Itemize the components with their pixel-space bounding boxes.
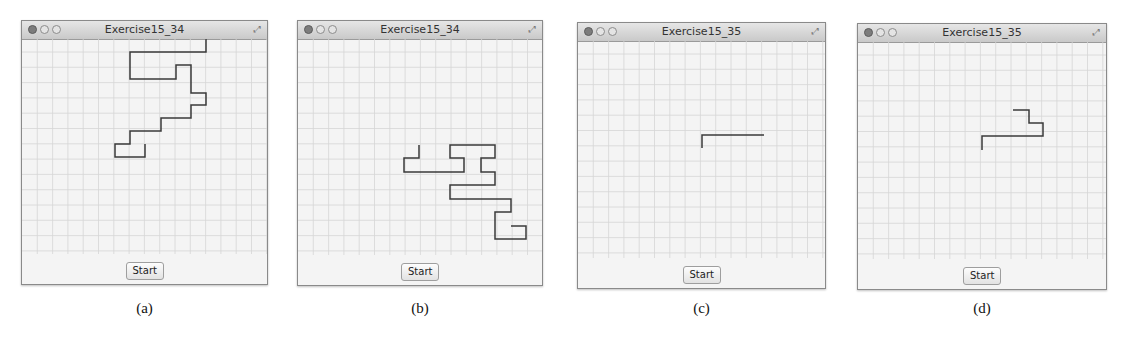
grid-svg: [858, 42, 1106, 259]
panel-caption: (a): [125, 300, 165, 317]
grid-canvas: [298, 39, 542, 255]
window-title: Exercise15_35: [578, 25, 825, 38]
app-window-b: Exercise15_34 ⤢ Start: [297, 20, 543, 286]
panel-caption: (d): [962, 300, 1002, 317]
title-bar[interactable]: Exercise15_35 ⤢: [578, 23, 825, 42]
start-button[interactable]: Start: [963, 267, 1001, 285]
grid-canvas: [22, 39, 267, 254]
panel-caption: (c): [682, 300, 722, 317]
fullscreen-icon[interactable]: ⤢: [810, 26, 820, 36]
window-title: Exercise15_34: [22, 23, 267, 36]
start-button[interactable]: Start: [126, 262, 164, 280]
title-bar[interactable]: Exercise15_35 ⤢: [858, 24, 1106, 43]
start-button[interactable]: Start: [401, 263, 439, 281]
app-window-a: Exercise15_34 ⤢ Start: [21, 20, 268, 285]
window-title: Exercise15_34: [298, 23, 542, 36]
panel-caption: (b): [400, 300, 440, 317]
app-window-c: Exercise15_35 ⤢ Start: [577, 22, 826, 289]
fullscreen-icon[interactable]: ⤢: [1091, 27, 1101, 37]
window-title: Exercise15_35: [858, 26, 1106, 39]
grid-canvas: [578, 41, 825, 258]
grid-svg: [22, 39, 267, 254]
fullscreen-icon[interactable]: ⤢: [252, 24, 262, 34]
grid-canvas: [858, 42, 1106, 259]
grid-svg: [578, 41, 825, 258]
title-bar[interactable]: Exercise15_34 ⤢: [298, 21, 542, 40]
title-bar[interactable]: Exercise15_34 ⤢: [22, 21, 267, 40]
fullscreen-icon[interactable]: ⤢: [527, 24, 537, 34]
app-window-d: Exercise15_35 ⤢ Start: [857, 23, 1107, 290]
start-button[interactable]: Start: [683, 266, 721, 284]
grid-svg: [298, 39, 542, 255]
